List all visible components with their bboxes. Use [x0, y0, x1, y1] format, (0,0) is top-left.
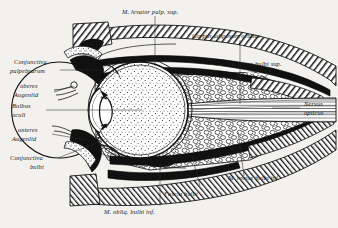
- label-conjunctiva-bulbi-line2: bulbi: [30, 163, 44, 170]
- label-bulbus-oculi-line1: Bulbus: [12, 102, 31, 109]
- label-fascia-bulbi: Fascia bulbi: [163, 190, 198, 197]
- label-unteres-augenlid-line1: unteres: [18, 126, 38, 133]
- label-conjunctiva-palpebrarum-line1: Conjunctiva: [14, 58, 47, 65]
- label-rectus-inferior: M. rectus bulbi inf.: [227, 174, 280, 181]
- eye-anatomy-diagram: M. levator palp. sup. Corpus adiposum or…: [0, 0, 338, 228]
- label-nervus-opticus-line2: opticus: [304, 109, 324, 116]
- label-oberes-augenlid-line1: oberes: [20, 82, 38, 89]
- label-conjunctiva-bulbi-line1: Conjunctiva: [10, 154, 43, 161]
- label-levator: M. levator palp. sup.: [121, 8, 179, 15]
- label-bulbus-oculi-line2: oculi: [12, 111, 26, 118]
- maxilla-bone: [70, 174, 100, 206]
- label-conjunctiva-palpebrarum-line2: palpebrarum: [9, 67, 45, 74]
- label-nervus-opticus-line1: Nervus: [303, 100, 323, 107]
- lid-margin-gland: [71, 82, 77, 88]
- label-oberes-augenlid-line2: Augenlid: [13, 91, 39, 98]
- label-unteres-augenlid-line2: Augenlid: [11, 135, 37, 142]
- label-corpus-adiposum: Corpus adiposum orbitae: [192, 32, 261, 39]
- label-obliquus-inferior: M. obliq. bulbi inf.: [103, 208, 155, 215]
- label-rectus-superior: M. rectus bulbi sup.: [227, 60, 282, 67]
